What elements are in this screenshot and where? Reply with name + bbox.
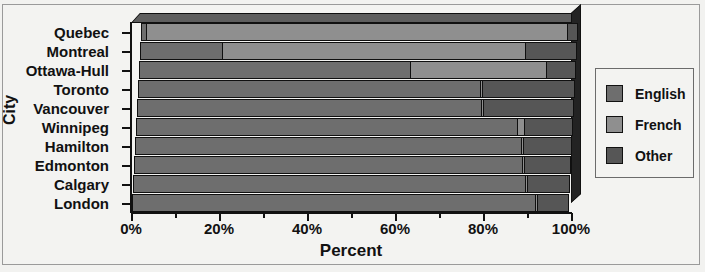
x-axis-label-20pct: 20% xyxy=(204,220,234,237)
bar-segment-other[interactable] xyxy=(546,61,577,79)
legend-label-english: English xyxy=(635,86,686,102)
bar-segment-other[interactable] xyxy=(567,23,578,41)
legend-swatch-english xyxy=(606,85,623,102)
legend-swatch-french xyxy=(606,116,623,133)
bar-row[interactable] xyxy=(132,194,572,212)
x-axis-label-60pct: 60% xyxy=(380,220,410,237)
x-axis-label-80pct: 80% xyxy=(468,220,498,237)
x-axis-tick-minor xyxy=(439,213,441,218)
y-axis-tick xyxy=(122,127,131,129)
y-axis-tick xyxy=(122,203,131,205)
y-axis-label-hamilton: Hamilton xyxy=(45,137,109,154)
y-axis-tick xyxy=(122,165,131,167)
bar-row[interactable] xyxy=(133,175,573,193)
x-axis-tick-minor xyxy=(351,213,353,218)
bar-segment-other[interactable] xyxy=(523,137,573,155)
legend-item-other[interactable]: Other xyxy=(606,140,693,171)
bar-segment-english[interactable] xyxy=(136,118,519,136)
bar-row[interactable] xyxy=(135,137,575,155)
x-axis-tick-minor xyxy=(263,213,265,218)
bar-segment-other[interactable] xyxy=(524,156,572,174)
y-axis-tick xyxy=(122,51,131,53)
y-axis-label-vancouver: Vancouver xyxy=(33,99,109,116)
bar-segment-other[interactable] xyxy=(525,42,578,60)
bar-segment-other[interactable] xyxy=(483,99,575,117)
y-axis-tick xyxy=(122,108,131,110)
x-axis-label-0pct: 0% xyxy=(120,220,142,237)
plot-area xyxy=(131,22,571,212)
legend-item-english[interactable]: English xyxy=(606,78,693,109)
y-axis-label-london: London xyxy=(54,194,109,211)
y-axis-label-ottawa-hull: Ottawa-Hull xyxy=(26,61,109,78)
bar-segment-french[interactable] xyxy=(410,61,546,79)
legend-swatch-other xyxy=(606,147,623,164)
bar-row[interactable] xyxy=(141,23,581,41)
bar-segment-other[interactable] xyxy=(537,194,570,212)
chart-frame: City Percent English French Other Quebec… xyxy=(2,4,700,265)
bar-segment-english[interactable] xyxy=(132,194,537,212)
bar-row[interactable] xyxy=(138,80,578,98)
bar-segment-other[interactable] xyxy=(527,175,571,193)
bar-row[interactable] xyxy=(137,99,577,117)
bar-segment-english[interactable] xyxy=(139,61,412,79)
y-axis-tick xyxy=(122,70,131,72)
legend-item-french[interactable]: French xyxy=(606,109,693,140)
bar-row[interactable] xyxy=(140,42,580,60)
bar-segment-french[interactable] xyxy=(222,42,526,60)
legend-label-french: French xyxy=(635,117,682,133)
y-axis-label-edmonton: Edmonton xyxy=(35,156,109,173)
x-axis-tick-minor xyxy=(175,213,177,218)
bar-segment-french[interactable] xyxy=(146,23,568,41)
y-axis-label-winnipeg: Winnipeg xyxy=(42,118,109,135)
y-axis-tick xyxy=(122,184,131,186)
y-axis-tick xyxy=(122,146,131,148)
bar-segment-english[interactable] xyxy=(138,80,481,98)
chart-legend: English French Other xyxy=(595,68,694,178)
bar-segment-english[interactable] xyxy=(133,175,527,193)
bar-segment-english[interactable] xyxy=(134,156,523,174)
x-axis-label-100pct: 100% xyxy=(552,220,590,237)
bar-segment-english[interactable] xyxy=(135,137,522,155)
x-axis-label-40pct: 40% xyxy=(292,220,322,237)
bar-row[interactable] xyxy=(134,156,574,174)
x-axis-title: Percent xyxy=(131,241,571,261)
bar-row[interactable] xyxy=(139,61,579,79)
y-axis-label-toronto: Toronto xyxy=(53,80,109,97)
bar-row[interactable] xyxy=(136,118,576,136)
bar-segment-other[interactable] xyxy=(524,118,573,136)
y-axis-label-quebec: Quebec xyxy=(54,23,109,40)
bar-segment-other[interactable] xyxy=(482,80,575,98)
x-axis-tick-minor xyxy=(527,213,529,218)
y-axis-tick xyxy=(122,32,131,34)
bar-segment-english[interactable] xyxy=(140,42,224,60)
chart-screenshot: City Percent English French Other Quebec… xyxy=(0,0,705,272)
bar-segment-english[interactable] xyxy=(137,99,482,117)
y-axis-label-montreal: Montreal xyxy=(46,42,109,59)
y-axis-label-calgary: Calgary xyxy=(54,175,109,192)
legend-label-other: Other xyxy=(635,148,672,164)
y-axis-tick xyxy=(122,89,131,91)
y-axis-title: City xyxy=(1,95,19,125)
